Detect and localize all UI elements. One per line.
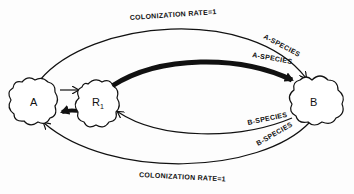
node-b: B xyxy=(289,76,343,125)
bottom-inner-species-label: B-SPECIES xyxy=(247,111,288,126)
colonization-diagram: A R1 B COLONIZATION RATE=1 A-SPECIES A-S… xyxy=(0,0,354,194)
node-r1: R1 xyxy=(75,80,119,127)
top-colonization-rate-label: COLONIZATION RATE=1 xyxy=(130,8,217,21)
bottom-colonization-rate-label: COLONIZATION RATE=1 xyxy=(139,171,226,183)
edge-r1-to-b-thick xyxy=(112,62,292,86)
edge-b-to-a-outer xyxy=(44,122,310,164)
node-a-label: A xyxy=(30,96,38,108)
node-b-label: B xyxy=(310,96,317,108)
top-inner-species-label: A-SPECIES xyxy=(252,51,293,65)
node-a: A xyxy=(9,78,58,125)
